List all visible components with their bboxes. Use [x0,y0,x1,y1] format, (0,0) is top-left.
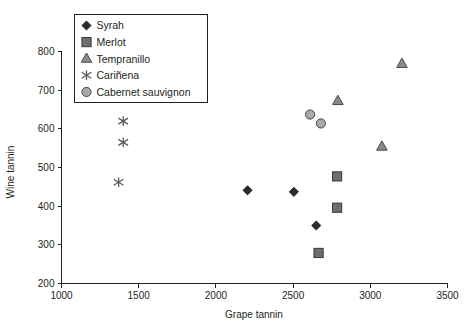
series-merlot [314,172,342,258]
data-point-cari-ena-asterisk-marker [118,138,128,148]
x-tick-label: 2500 [282,290,305,301]
plot-canvas: 100015002000250030003500 200300400500600… [0,0,468,326]
data-point-syrah-diamond-marker [312,221,321,230]
data-point-merlot-square-marker [314,248,323,257]
data-point-tempranillo-triangle-marker [377,141,388,150]
y-axis-title: Wine tannin [5,146,16,199]
legend-item-merlot[interactable]: Merlot [82,36,126,48]
data-point-tempranillo-triangle-marker [397,58,408,67]
data-point-merlot-square-marker [333,172,342,181]
x-tick-label: 1000 [50,290,73,301]
series-cari-ena [114,116,128,187]
scatter-plot-figure: 100015002000250030003500 200300400500600… [0,0,468,326]
data-point-merlot-square-marker [333,203,342,212]
y-tick-label: 500 [38,162,55,173]
y-tick-label: 200 [38,278,55,289]
data-point-cabernet-sauvignon-circle-marker [316,119,325,128]
data-point-cari-ena-asterisk-marker [114,177,124,187]
legend-item-label: Merlot [97,36,126,48]
data-point-cabernet-sauvignon-circle-marker [305,110,314,119]
legend-item-label: Syrah [97,19,125,31]
legend-item-cabernet-sauvignon[interactable]: Cabernet sauvignon [82,86,191,98]
x-tick-label: 2000 [205,290,228,301]
data-point-cari-ena-asterisk-marker [118,116,128,126]
x-axis-title: Grape tannin [225,309,283,320]
x-tick-label: 1500 [128,290,151,301]
y-axis-ticks: 200300400500600700800 [38,46,62,289]
legend-item-label: Cariñena [97,69,140,81]
x-tick-label: 3500 [436,290,459,301]
chart-legend: SyrahMerlotTempranilloCariñenaCabernet s… [75,15,208,103]
series-cabernet-sauvignon [305,110,325,128]
legend-item-label: Cabernet sauvignon [97,86,191,98]
data-point-syrah-diamond-marker [243,186,252,195]
data-point-syrah-diamond-marker [289,187,298,196]
series-tempranillo [333,58,408,150]
x-tick-label: 3000 [359,290,382,301]
x-axis-ticks: 100015002000250030003500 [50,284,459,301]
legend-item-label: Tempranillo [97,53,151,65]
y-tick-label: 300 [38,239,55,250]
series-syrah [243,186,321,230]
data-point-tempranillo-triangle-marker [333,95,344,104]
legend-merlot-square-marker [82,38,91,47]
y-tick-label: 700 [38,85,55,96]
y-tick-label: 400 [38,201,55,212]
y-tick-label: 800 [38,46,55,57]
legend-cabernet-sauvignon-circle-marker [82,87,91,96]
y-tick-label: 600 [38,123,55,134]
